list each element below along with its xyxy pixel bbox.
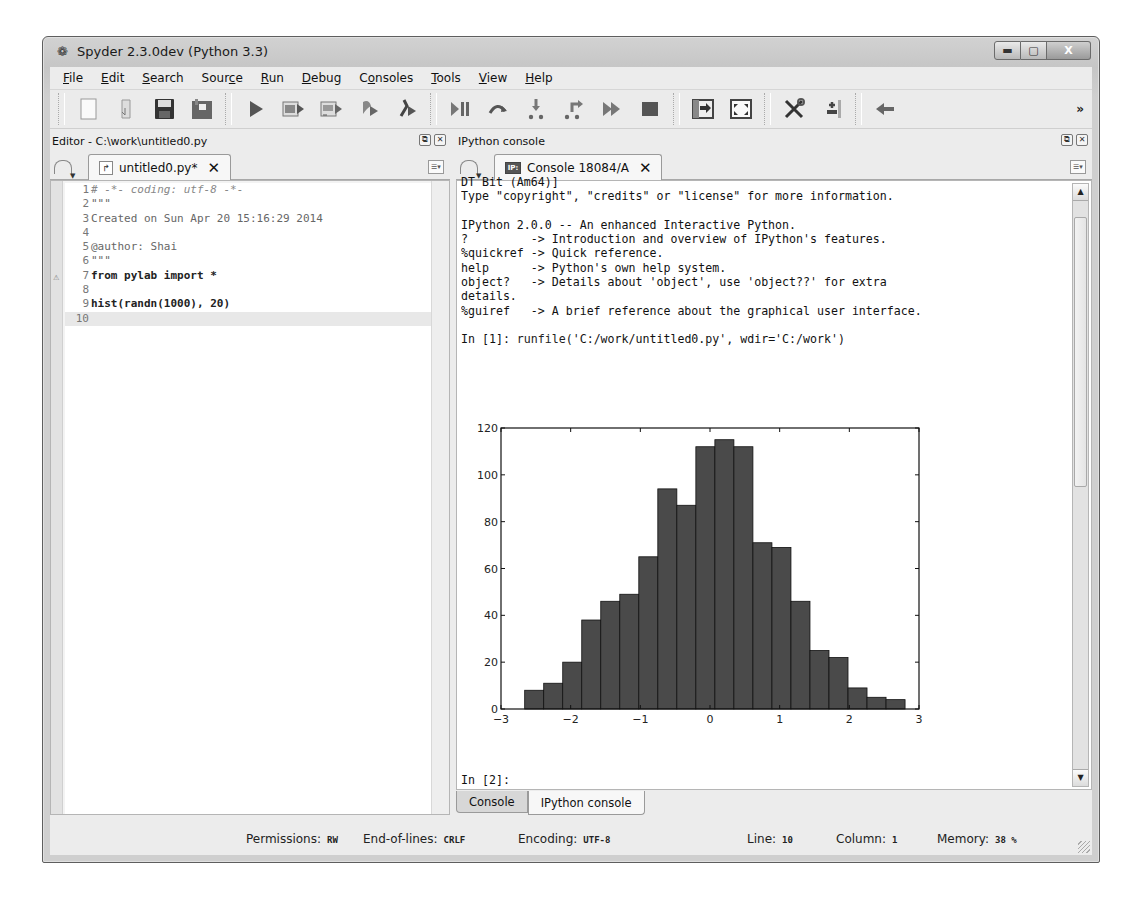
scroll-thumb[interactable] [1074,217,1087,487]
open-file-button[interactable] [109,92,143,126]
menu-help[interactable]: Help [516,71,561,85]
toolbar-handle[interactable] [430,93,437,125]
preferences-button[interactable] [777,92,811,126]
toolbar-more-button[interactable]: » [1076,102,1084,116]
save-all-button[interactable] [185,92,219,126]
back-arrow-button[interactable] [868,92,902,126]
toolbar-handle[interactable] [855,93,862,125]
histogram-bar [791,601,810,709]
tab-console[interactable]: Console [456,791,528,813]
menu-search[interactable]: Search [133,71,192,85]
back-arrow-icon [872,96,898,122]
save-button[interactable] [147,92,181,126]
menu-tools[interactable]: Tools [422,71,470,85]
menu-source[interactable]: Source [193,71,252,85]
pythonpath-manager-button[interactable] [815,92,849,126]
stop-debug-button[interactable] [633,92,667,126]
python-file-icon: ↱ [99,161,113,175]
step-into-button[interactable] [519,92,553,126]
code-line[interactable]: ⚠7from pylab import * [65,269,431,283]
toolbar-handle[interactable] [764,93,771,125]
console-options-menu-button[interactable]: ☰▾ [1070,160,1086,174]
menu-consoles[interactable]: Consoles [350,71,422,85]
pythonpath-manager-icon [819,96,845,122]
tab-untitled0[interactable]: ↱ untitled0.py* ✕ [88,154,231,181]
line-number: 2 [65,197,91,211]
permissions-label: Permissions: [246,832,321,846]
x-tick-label: 0 [707,713,714,726]
close-pane-button[interactable]: ✕ [1076,134,1088,146]
undock-button[interactable]: ⧉ [419,134,431,146]
menu-view[interactable]: View [470,71,516,85]
warning-icon[interactable]: ⚠ [53,270,59,284]
tab-label: untitled0.py* [119,161,197,175]
status-encoding: Encoding: UTF-8 [518,832,610,846]
x-tick-label: 3 [916,713,923,726]
chevron-down-icon: ▼ [70,172,75,180]
y-tick-label: 40 [484,609,498,622]
close-button[interactable]: X [1047,41,1091,60]
close-icon: ✕ [1079,135,1086,144]
close-tab-icon[interactable]: ✕ [207,159,220,177]
code-line[interactable]: 10 [65,312,431,326]
scroll-down-button[interactable]: ▼ [1073,769,1088,786]
configure-run-button[interactable] [390,92,424,126]
ipython-icon: IP: [505,162,521,174]
code-line[interactable]: 5@author: Shai [65,240,431,254]
code-editor[interactable]: 1# -*- coding: utf-8 -*-2"""3Created on … [50,180,450,815]
step-over-button[interactable] [481,92,515,126]
stop-debug-icon [637,96,663,122]
close-pane-button[interactable]: ✕ [434,134,446,146]
continue-button[interactable] [595,92,629,126]
console-output[interactable]: DT Bit (Am64)]Type "copyright", "credits… [456,180,1092,790]
menu-debug[interactable]: Debug [293,71,350,85]
histogram-bar [582,620,601,709]
console-pane-header: IPython console ⧉ ✕ [456,131,1092,152]
menu-edit[interactable]: Edit [92,71,133,85]
debug-button[interactable] [443,92,477,126]
tab-label: Console 18084/A [527,161,629,175]
new-file-button[interactable] [71,92,105,126]
scroll-up-button[interactable]: ▲ [1073,184,1088,201]
maximize-pane-button[interactable] [686,92,720,126]
code-text: hist(randn(1000), 20) [91,297,230,311]
run-cell-button[interactable] [276,92,310,126]
code-line[interactable]: 8 [65,283,431,297]
title-bar[interactable]: ❁ Spyder 2.3.0dev (Python 3.3) ▬ ▢ X [43,37,1099,67]
console-scrollbar[interactable]: ▲ ▼ [1072,183,1089,787]
console-line: ? -> Introduction and overview of IPytho… [461,232,1067,246]
line-label: Line: [747,832,776,846]
code-area[interactable]: 1# -*- coding: utf-8 -*-2"""3Created on … [65,183,431,814]
run-selection-button[interactable] [352,92,386,126]
fullscreen-button[interactable] [724,92,758,126]
menu-file[interactable]: File [54,71,92,85]
spyder-icon: ❁ [57,45,71,59]
eol-value: CRLF [444,835,466,845]
code-line[interactable]: 9hist(randn(1000), 20) [65,297,431,311]
menu-run[interactable]: Run [252,71,293,85]
toolbar-handle[interactable] [673,93,680,125]
code-line[interactable]: 6""" [65,254,431,268]
console-prompt[interactable]: In [2]: [461,773,1067,787]
histogram-bar [734,447,753,709]
line-number: 9 [65,297,91,311]
run-button[interactable] [238,92,272,126]
code-line[interactable]: 4 [65,226,431,240]
maximize-button[interactable]: ▢ [1021,41,1047,60]
code-line[interactable]: 2""" [65,197,431,211]
minimize-button[interactable]: ▬ [994,41,1021,60]
x-tick-label: 2 [846,713,853,726]
tab-ipython-console[interactable]: IPython console [528,791,645,815]
editor-scrollbar[interactable] [431,181,449,814]
run-cell-icon [280,96,306,122]
line-number: 6 [65,254,91,268]
toolbar-handle[interactable] [58,93,65,125]
resize-grip[interactable] [1078,841,1090,853]
undock-button[interactable]: ⧉ [1061,134,1073,146]
code-line[interactable]: 1# -*- coding: utf-8 -*- [65,183,431,197]
step-return-button[interactable] [557,92,591,126]
code-line[interactable]: 3Created on Sun Apr 20 15:16:29 2014 [65,212,431,226]
run-cell-advance-button[interactable] [314,92,348,126]
toolbar-handle[interactable] [225,93,232,125]
editor-options-menu-button[interactable]: ☰▾ [428,160,444,174]
